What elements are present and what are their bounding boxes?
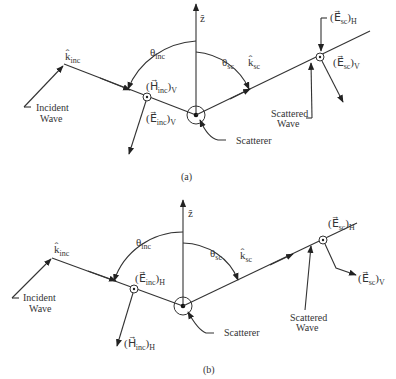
k-inc-label: k̂inc xyxy=(54,242,70,258)
theta-inc-label: θinc xyxy=(136,236,152,251)
incident-field-vector-arrow xyxy=(129,101,146,154)
z-axis-label: ẑ xyxy=(188,207,193,219)
incident-field-arrow-label: (E⃗inc)V xyxy=(146,111,176,127)
scatterer-label: Scatterer xyxy=(224,327,260,338)
theta-inc-arc xyxy=(128,41,196,89)
scatterer-pointer xyxy=(200,120,226,140)
theta-sc-label: θsc xyxy=(222,56,234,71)
incident-field-arrow-label: (H⃗inc)H xyxy=(124,336,155,352)
k-inc-label: k̂inc xyxy=(65,49,81,65)
scattered-ray xyxy=(196,31,370,115)
scattered-field-dot-label: (E⃗sc)H xyxy=(330,10,357,26)
scattered-field-arrow-label: (E⃗sc)V xyxy=(358,271,385,287)
incident-wave-pointer xyxy=(24,66,63,107)
incident-ray-arrow xyxy=(100,78,130,90)
k-sc-label: k̂sc xyxy=(240,248,253,264)
panel-a-caption: (a) xyxy=(181,171,192,183)
z-axis-label: ẑ xyxy=(200,12,205,24)
theta-sc-label: θsc xyxy=(210,247,222,262)
theta-inc-arc xyxy=(114,232,183,281)
scattering-geometry-diagram: ẑ k̂inc Incident Wave θinc θsc (H⃗inc)V … xyxy=(0,0,396,379)
incident-wave-label-line1: Incident xyxy=(23,292,56,303)
scattered-field-dot-label: (E⃗sc)H xyxy=(328,216,355,232)
scattered-wave-label-line2: Wave xyxy=(296,322,319,333)
scattered-ray-arrow xyxy=(270,254,293,265)
scattered-ray-arrow xyxy=(230,89,250,99)
incident-field-dot-label: (H⃗inc)V xyxy=(146,79,177,95)
incident-field-dot-label: (E⃗inc)H xyxy=(135,271,165,287)
incident-ray-arrow xyxy=(88,271,116,281)
incident-wave-label-line2: Wave xyxy=(40,113,63,124)
panel-a: ẑ k̂inc Incident Wave θinc θsc (H⃗inc)V … xyxy=(24,4,370,183)
panel-b: ẑ k̂inc Incident Wave θinc θsc (E⃗inc)H … xyxy=(12,200,385,376)
scattered-wave-label-line2: Wave xyxy=(277,118,300,129)
scattered-wave-pointer xyxy=(305,246,311,310)
scattered-field-arrow-label: (E⃗sc)V xyxy=(333,55,360,71)
scattered-wave-pointer xyxy=(311,63,312,118)
scattered-field-vector-arrow xyxy=(325,244,356,275)
incident-wave-label-line1: Incident xyxy=(36,102,69,113)
scatterer-pointer xyxy=(188,312,214,333)
k-sc-label: k̂sc xyxy=(248,55,261,71)
scatterer-label: Scatterer xyxy=(236,135,272,146)
theta-inc-label: θinc xyxy=(150,46,166,61)
panel-b-caption: (b) xyxy=(203,364,215,376)
incident-wave-label-line2: Wave xyxy=(29,303,52,314)
